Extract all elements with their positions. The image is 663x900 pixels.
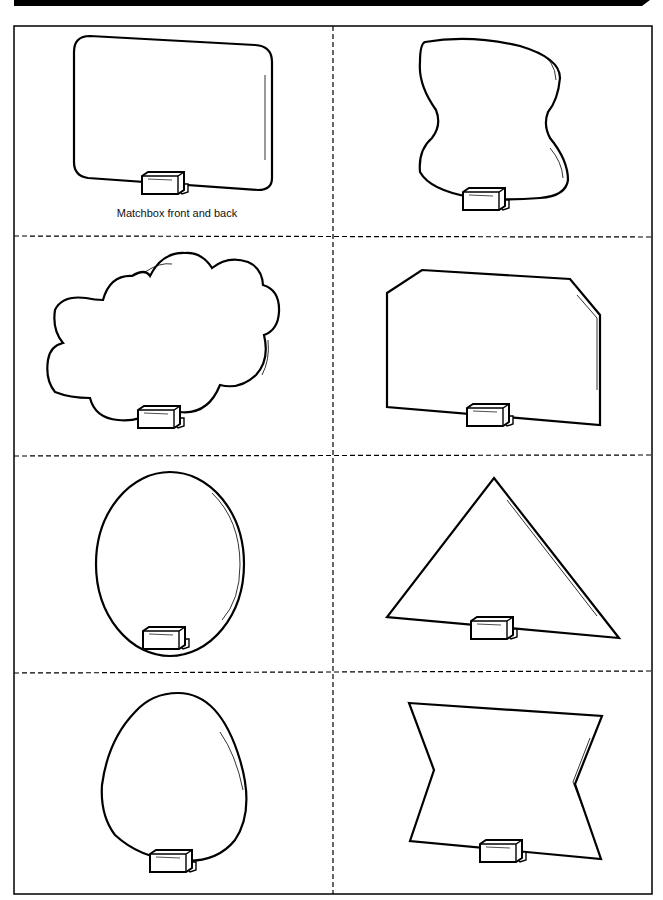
card-bowtie (409, 703, 602, 862)
card-cut-corner-rectangle (387, 270, 600, 426)
matchbox-caption: Matchbox front and back (117, 207, 238, 219)
card-triangle (387, 478, 619, 639)
template-sheet: Matchbox front and back (0, 0, 663, 900)
card-rounded-rectangle (74, 36, 272, 194)
card-oval (96, 472, 244, 656)
card-egg (102, 693, 247, 872)
card-cloud (47, 253, 279, 428)
card-wavy-hourglass (420, 39, 568, 210)
